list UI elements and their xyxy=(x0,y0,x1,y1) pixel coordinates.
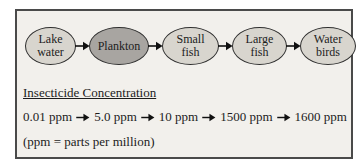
stage-water-birds: Water birds xyxy=(300,27,356,65)
concentration-value: 10 ppm xyxy=(159,109,198,125)
arrow-right-icon xyxy=(277,113,291,122)
stage-plankton: Plankton xyxy=(89,27,149,65)
arrow-right-icon xyxy=(76,113,90,122)
concentration-value: 0.01 ppm xyxy=(23,109,72,125)
ppm-footnote: (ppm = parts per million) xyxy=(23,134,351,150)
stage-large-fish: Large fish xyxy=(232,27,287,65)
stage-lake-water: Lake water xyxy=(25,27,76,65)
concentration-section: Insecticide Concentration 0.01 ppm 5.0 p… xyxy=(17,85,351,150)
concentration-heading: Insecticide Concentration xyxy=(23,85,351,101)
arrow-right-icon xyxy=(148,41,163,51)
concentration-value: 5.0 ppm xyxy=(94,109,137,125)
concentration-value: 1600 ppm xyxy=(295,109,347,125)
arrow-right-icon xyxy=(218,41,233,51)
stage-label-line: birds xyxy=(316,46,340,59)
arrow-right-icon xyxy=(141,113,155,122)
food-chain-row: Lake water Plankton Small fish Large fis… xyxy=(17,27,351,65)
concentration-values: 0.01 ppm 5.0 ppm 10 ppm 1500 ppm 1600 pp… xyxy=(23,109,351,125)
concentration-value: 1500 ppm xyxy=(220,109,272,125)
arrow-right-icon xyxy=(75,41,90,51)
stage-label-line: fish xyxy=(182,46,200,59)
stage-small-fish: Small fish xyxy=(162,27,219,65)
stage-label-line: Plankton xyxy=(98,40,141,53)
arrow-right-icon xyxy=(202,113,216,122)
stage-label-line: fish xyxy=(251,46,269,59)
stage-label-line: water xyxy=(37,46,64,59)
arrow-right-icon xyxy=(286,41,301,51)
diagram-panel: Lake water Plankton Small fish Large fis… xyxy=(15,9,353,159)
